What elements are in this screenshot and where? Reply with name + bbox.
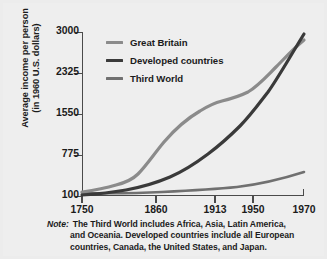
legend-swatch-third-world xyxy=(106,77,123,80)
y-tick-label: 1550 xyxy=(39,107,79,118)
figure-canvas: Average income per person (in 1960 U.S. … xyxy=(3,3,324,256)
x-tick-label: 1913 xyxy=(203,204,226,215)
x-tick-mark xyxy=(155,196,156,203)
y-tick-label: 100 xyxy=(39,189,79,200)
legend-swatch-great-britain xyxy=(106,41,123,44)
legend-item-third-world: Third World xyxy=(106,73,223,84)
note-label: Note: xyxy=(47,219,69,230)
legend-label-developed-countries: Developed countries xyxy=(130,55,223,66)
legend-swatch-developed-countries xyxy=(106,59,123,62)
x-tick-label: 1970 xyxy=(292,204,315,215)
x-tick-label: 1750 xyxy=(70,204,93,215)
legend-item-developed-countries: Developed countries xyxy=(106,55,223,66)
chart-legend: Great Britain Developed countries Third … xyxy=(106,37,223,84)
legend-label-third-world: Third World xyxy=(130,73,183,84)
x-tick-mark xyxy=(81,196,82,203)
chart-note: Note: The Third World includes Africa, A… xyxy=(47,219,309,253)
note-line-3: countries, Canada, the United States, an… xyxy=(47,242,309,253)
x-tick-mark xyxy=(214,196,215,203)
note-line-1: Note: The Third World includes Africa, A… xyxy=(47,219,309,230)
x-tick-mark xyxy=(252,196,253,203)
series-line-third-world xyxy=(82,172,304,193)
y-tick-label: 3000 xyxy=(39,25,79,36)
y-axis-title-line1: Average income per person xyxy=(20,8,31,128)
x-tick-label: 1860 xyxy=(144,204,167,215)
y-tick-label: 2325 xyxy=(39,66,79,77)
figure-container: Average income per person (in 1960 U.S. … xyxy=(0,0,327,259)
y-tick-label: 775 xyxy=(39,148,79,159)
note-text-line1: The Third World includes Africa, Asia, L… xyxy=(73,219,286,230)
note-line-2: and Oceania. Developed countries include… xyxy=(47,230,309,241)
x-tick-label: 1950 xyxy=(241,204,264,215)
legend-item-great-britain: Great Britain xyxy=(106,37,223,48)
legend-label-great-britain: Great Britain xyxy=(130,37,187,48)
